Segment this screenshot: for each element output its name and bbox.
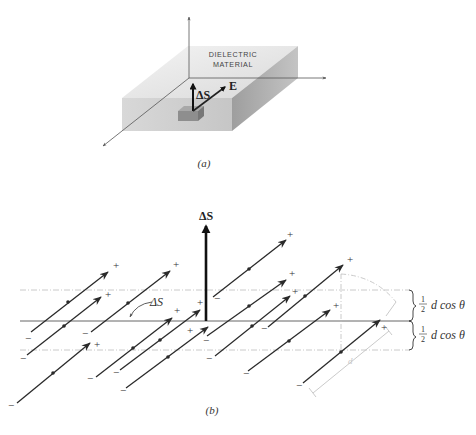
thickness-braces: [409, 290, 416, 350]
svg-text:−: −: [120, 384, 126, 396]
slab-label-line1: DIELECTRIC: [209, 50, 258, 59]
svg-text:−: −: [214, 292, 220, 304]
svg-text:+: +: [292, 285, 298, 297]
negative-charges: − − − − − − − − − − − − −: [8, 292, 302, 411]
part-b: d: [8, 209, 465, 417]
svg-text:+: +: [187, 324, 193, 336]
delta-s-vector-label: ΔS: [199, 209, 214, 223]
svg-text:+: +: [333, 299, 339, 311]
e-field-label: E: [229, 79, 237, 93]
svg-text:+: +: [287, 228, 293, 240]
dielectric-polarization-figure: DIELECTRIC MATERIAL ΔS E (a): [0, 0, 476, 435]
svg-text:+: +: [173, 258, 179, 270]
svg-text:+: +: [105, 288, 111, 300]
svg-text:2: 2: [421, 335, 425, 344]
svg-text:−: −: [82, 327, 88, 339]
svg-text:d cos θ: d cos θ: [431, 328, 465, 342]
svg-text:1: 1: [421, 295, 425, 304]
caption-b: (b): [206, 404, 219, 417]
slab-front-face: [122, 98, 232, 131]
svg-text:−: −: [20, 352, 26, 364]
length-d-label: d: [348, 356, 353, 366]
svg-text:+: +: [197, 296, 203, 308]
svg-text:−: −: [261, 322, 267, 334]
surface-element-block: [178, 106, 204, 121]
dimension-lower: 1 2 d cos θ: [419, 325, 465, 344]
svg-text:+: +: [94, 338, 100, 350]
svg-text:−: −: [8, 399, 14, 411]
svg-text:−: −: [203, 334, 209, 346]
svg-text:+: +: [174, 304, 180, 316]
svg-text:−: −: [87, 372, 93, 384]
svg-text:+: +: [113, 259, 119, 271]
svg-text:−: −: [243, 367, 249, 379]
svg-text:2: 2: [421, 305, 425, 314]
caption-a: (a): [198, 157, 211, 170]
svg-text:−: −: [25, 332, 31, 344]
delta-s-label-a: ΔS: [196, 88, 211, 102]
slab-label-line2: MATERIAL: [213, 60, 253, 69]
svg-text:+: +: [381, 321, 387, 333]
dipoles: [17, 240, 380, 403]
svg-text:+: +: [289, 267, 295, 279]
dimension-upper: 1 2 d cos θ: [419, 295, 465, 314]
delta-s-pointer: [130, 302, 152, 317]
svg-text:+: +: [347, 253, 353, 265]
part-a: DIELECTRIC MATERIAL ΔS E (a): [103, 17, 326, 170]
svg-text:d cos θ: d cos θ: [431, 298, 465, 312]
positive-charges: + + + + + + + + + + + + +: [94, 228, 387, 350]
svg-text:1: 1: [421, 325, 425, 334]
angle-construction: [309, 274, 396, 397]
svg-text:−: −: [113, 366, 119, 378]
svg-text:−: −: [206, 352, 212, 364]
svg-text:−: −: [296, 379, 302, 391]
